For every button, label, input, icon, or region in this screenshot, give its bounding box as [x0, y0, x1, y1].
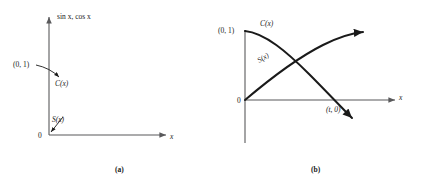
- panel-a-origin-label: 0: [38, 132, 42, 140]
- panel-b-origin-label: 0: [237, 97, 241, 105]
- panel-a-point-0-1-label: (0, 1): [13, 61, 29, 69]
- panel-a-y-axis-label: sin x, cos x: [57, 13, 91, 21]
- panel-a-curve-label-c: C(x): [55, 80, 68, 88]
- panel-b-plot: [213, 0, 426, 186]
- panel-b-x-axis-label: x: [399, 94, 402, 102]
- panel-a-caption: (a): [115, 166, 124, 174]
- panel-b-curve-label-c: C(x): [260, 20, 273, 28]
- panel-a-x-axis-label: x: [170, 133, 173, 141]
- panel-a-curve-label-s: S(x): [52, 116, 64, 124]
- panel-b-curve-s: [245, 32, 363, 100]
- panel-b-caption: (b): [311, 166, 320, 174]
- panel-b-point-0-1-label: (0, 1): [218, 27, 234, 35]
- panel-a-leader-c: [36, 65, 59, 77]
- panel-b: (0, 1) C(x) S(x) 0 (t, 0) x (b): [213, 0, 426, 186]
- figure-root: sin x, cos x (0, 1) C(x) S(x) 0 x (a): [0, 0, 426, 186]
- panel-a-plot: [0, 0, 213, 186]
- panel-a: sin x, cos x (0, 1) C(x) S(x) 0 x (a): [0, 0, 213, 186]
- panel-b-point-t-0-label: (t, 0): [326, 106, 341, 114]
